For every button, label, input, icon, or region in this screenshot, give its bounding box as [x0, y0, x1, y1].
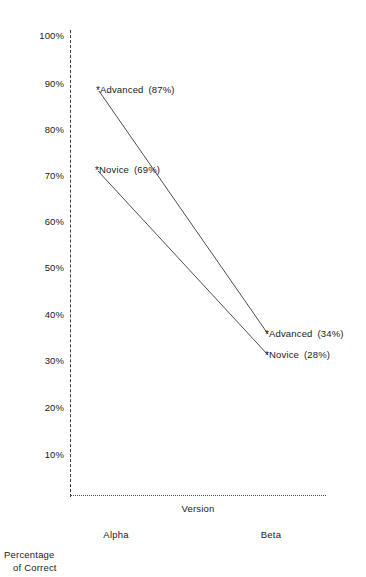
plot-lines	[0, 0, 366, 577]
series-line-advanced	[99, 91, 268, 334]
point-value: (28%)	[304, 349, 330, 360]
point-series-name: Novice	[269, 349, 299, 360]
x-category-beta: Beta	[261, 529, 281, 540]
data-point-novice-alpha: *Novice(69%)	[95, 165, 160, 175]
marker-asterisk: *	[96, 85, 100, 96]
point-value: (87%)	[149, 84, 175, 95]
point-series-name: Novice	[99, 164, 129, 175]
x-category-alpha: Alpha	[103, 529, 128, 540]
point-series-name: Advanced	[269, 328, 312, 339]
y-axis-caption-line1: Percentage	[4, 548, 57, 561]
x-axis-title: Version	[70, 503, 326, 514]
data-point-advanced-beta: *Advanced(34%)	[265, 329, 344, 339]
point-series-name: Advanced	[100, 84, 143, 95]
data-point-advanced-alpha: *Advanced(87%)	[96, 85, 175, 95]
y-axis-caption: Percentage of Correct	[4, 548, 57, 574]
data-point-novice-beta: *Novice(28%)	[265, 350, 330, 360]
marker-asterisk: *	[265, 329, 269, 340]
marker-asterisk: *	[265, 350, 269, 361]
point-value: (69%)	[134, 164, 160, 175]
point-value: (34%)	[318, 328, 344, 339]
y-axis-caption-line2: of Correct	[4, 561, 57, 574]
slope-chart: 100% 90% 80% 70% 60% 50% 40% 30% 20% 10%…	[0, 0, 366, 577]
x-axis-line	[70, 495, 326, 496]
marker-asterisk: *	[95, 165, 99, 176]
series-line-novice	[98, 171, 268, 355]
